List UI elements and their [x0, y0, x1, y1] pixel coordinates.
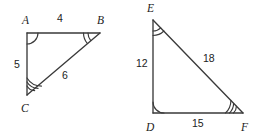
vertex-label-b: B [97, 14, 104, 26]
side-ef [153, 20, 243, 113]
vertex-label-f: F [240, 121, 249, 133]
side-length-ed: 12 [136, 57, 148, 69]
vertex-label-d: D [145, 121, 155, 133]
vertex-label-e: E [146, 2, 154, 14]
vertex-label-c: C [21, 102, 29, 114]
vertex-label-a: A [21, 14, 30, 26]
geometry-figure: A B C 4 5 6 [0, 0, 267, 137]
angle-mark-d [153, 102, 164, 113]
triangle-def: E D F 12 18 15 [136, 2, 249, 133]
side-length-ab: 4 [57, 12, 63, 24]
side-length-df: 15 [192, 117, 204, 129]
angle-mark-a [27, 33, 38, 44]
side-length-ac: 5 [14, 58, 20, 70]
angle-mark-f [226, 100, 237, 113]
side-length-ef: 18 [203, 52, 215, 64]
triangle-abc: A B C 4 5 6 [14, 12, 104, 114]
side-length-cb: 6 [62, 69, 68, 81]
triangles-canvas: A B C 4 5 6 [0, 0, 267, 137]
